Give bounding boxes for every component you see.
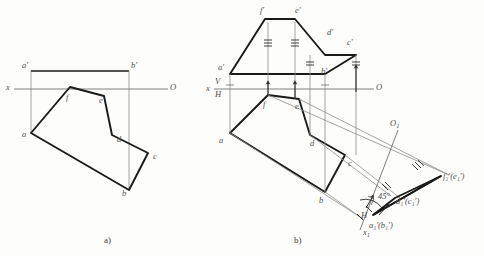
a-label: a [22, 130, 26, 139]
d-label-b: d [310, 139, 314, 148]
c-label: c [153, 152, 157, 161]
f-prime-label: f' [260, 6, 264, 15]
caption-b: b) [294, 235, 302, 245]
o1-axis-label: O1 [390, 119, 399, 128]
e-label: e [99, 96, 103, 105]
f-label-b: f [263, 100, 265, 109]
axis-b-o-label: O [376, 83, 382, 92]
axis-a-o-label: O [170, 83, 176, 92]
technical-drawing-svg [0, 0, 484, 256]
c-prime-label: c' [347, 38, 353, 47]
axis-b-v-label: V [215, 77, 220, 86]
d1-c1-label: d₁'(c₁') [396, 197, 419, 206]
a-prime-label: a' [22, 61, 28, 70]
angle-45-label: 45° [378, 192, 390, 201]
axis-b-x-label: x [206, 84, 210, 93]
a-prime-label-b: a' [218, 63, 224, 72]
e-label-b: e [295, 102, 299, 111]
a-label-b: a [219, 136, 223, 145]
a1-b1-label: a₁'(b₁') [369, 221, 393, 230]
b-prime-label: b' [131, 61, 137, 70]
figure-canvas: x O a' b' f e a d c b a) x V H O f' e' d… [0, 0, 484, 256]
axis-b-h-label: H [215, 90, 221, 99]
f1-e1-label: f₁'(e₁') [443, 172, 464, 181]
b-label: b [122, 189, 126, 198]
caption-a: a) [104, 235, 111, 245]
e-prime-label: e' [295, 6, 301, 15]
c-label-b: c [348, 159, 352, 168]
h-projection-polygon [230, 95, 345, 192]
d-label: d [117, 135, 121, 144]
d-prime-label: d' [327, 28, 333, 37]
v-projection-polygon [230, 19, 356, 74]
axis-a-x-label: x [6, 83, 10, 92]
h-aux-label: H [361, 211, 367, 220]
b-label-b: b [319, 196, 323, 205]
b-prime-label-b: b' [321, 67, 327, 76]
diagram-a-group [14, 71, 168, 190]
shape-a-polygon [31, 87, 148, 190]
f-label: f [66, 93, 68, 102]
